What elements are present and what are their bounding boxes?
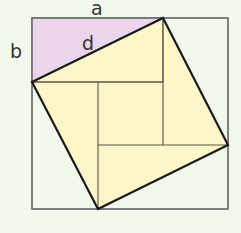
pythagoras-diagram: a b d <box>0 0 241 233</box>
label-d: d <box>82 32 94 54</box>
label-a: a <box>91 0 103 19</box>
label-b: b <box>10 40 22 62</box>
